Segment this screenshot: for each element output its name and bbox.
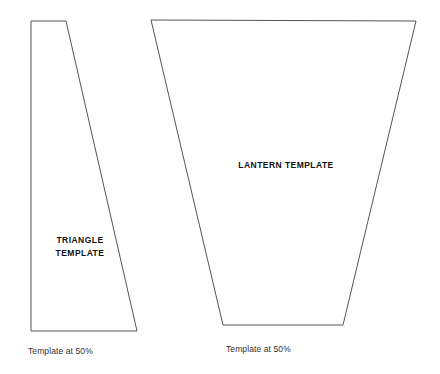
template-shapes-canvas — [0, 0, 440, 374]
triangle-template-label: TRIANGLE TEMPLATE — [56, 234, 105, 260]
triangle-template-caption: Template at 50% — [28, 346, 93, 356]
template-sheet: TRIANGLE TEMPLATE LANTERN TEMPLATE Templ… — [0, 0, 440, 374]
lantern-template-caption: Template at 50% — [226, 344, 291, 354]
lantern-template-label: LANTERN TEMPLATE — [238, 159, 333, 172]
lantern-template-outline — [151, 20, 416, 325]
triangle-template-outline — [31, 21, 137, 331]
